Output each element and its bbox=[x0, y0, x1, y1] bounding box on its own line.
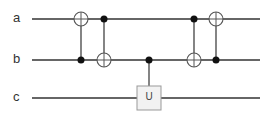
control-dot-icon bbox=[101, 16, 108, 23]
quantum-circuit: a b c U bbox=[0, 0, 276, 115]
cnot-gate-1 bbox=[74, 12, 88, 64]
u-gate-label: U bbox=[137, 91, 161, 102]
control-dot-icon bbox=[146, 57, 153, 64]
wire-label-b: b bbox=[13, 51, 20, 66]
cnot-gate-2 bbox=[97, 16, 111, 68]
control-dot-icon bbox=[191, 16, 198, 23]
cnot-gate-5 bbox=[209, 12, 223, 64]
wire-label-a: a bbox=[13, 10, 20, 25]
control-dot-icon bbox=[78, 57, 85, 64]
cnot-gate-4 bbox=[187, 16, 201, 68]
wire-label-c: c bbox=[13, 89, 20, 104]
control-dot-icon bbox=[213, 57, 220, 64]
